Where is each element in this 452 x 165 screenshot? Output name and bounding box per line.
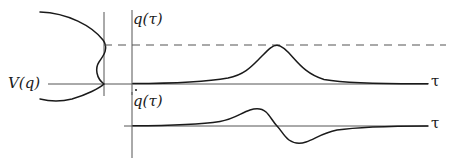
velocity-q-letter: q [133, 92, 143, 110]
bounce-panel [118, 10, 428, 95]
potential-panel [40, 12, 118, 101]
figure-canvas [0, 0, 452, 165]
q-with-dot-glyph: q [133, 94, 143, 109]
velocity-tau-argument: (τ) [143, 92, 163, 110]
bounce-curve [133, 45, 428, 84]
tau-axis-label-top: τ [431, 74, 439, 89]
position-label: q(τ) [133, 12, 163, 27]
potential-label: V(q) [8, 76, 40, 91]
tau-axis-label-bottom: τ [431, 116, 439, 131]
potential-curve [40, 12, 106, 101]
derivative-panel [124, 92, 428, 158]
instanton-bounce-figure: V(q) q(τ) q (τ) τ τ [0, 0, 452, 165]
velocity-label: q (τ) [133, 94, 163, 109]
